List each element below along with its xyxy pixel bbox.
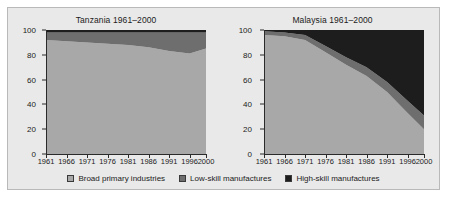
area-band — [46, 40, 206, 154]
x-axis-tick-label: 1976 — [99, 157, 116, 166]
x-axis-tick-label: 1961 — [38, 157, 55, 166]
x-axis-tick-mark — [206, 154, 207, 158]
x-axis-tick-mark — [149, 154, 150, 158]
chart-legend: Broad primary industries Low-skill manuf… — [8, 174, 439, 183]
x-axis-line-tanzania — [46, 154, 207, 155]
y-axis-tick-label: 20 — [27, 125, 36, 134]
y-axis-tick-mark — [42, 104, 46, 105]
chart-title-tanzania: Tanzania 1961–2000 — [8, 15, 224, 25]
plot-area-malaysia — [264, 30, 424, 154]
x-axis-tick-label: 1991 — [379, 157, 396, 166]
x-axis-tick-mark — [169, 154, 170, 158]
x-axis-tick-label: 1966 — [276, 157, 293, 166]
x-axis-tick-label: 1971 — [79, 157, 96, 166]
x-axis-tick-label: 2000 — [198, 157, 215, 166]
x-axis-labels-malaysia: 196119661971197619811986199119962000 — [224, 157, 441, 171]
y-axis-tick-mark — [42, 30, 46, 31]
x-axis-labels-tanzania: 196119661971197619811986199119962000 — [8, 157, 224, 171]
y-axis-tick-label: 100 — [239, 26, 252, 35]
x-axis-tick-mark — [424, 154, 425, 158]
y-axis-tick-mark — [42, 54, 46, 55]
y-axis-tick-mark — [42, 129, 46, 130]
x-axis-tick-label: 1996 — [181, 157, 198, 166]
x-axis-tick-mark — [408, 154, 409, 158]
y-axis-tick-label: 80 — [243, 50, 252, 59]
legend-item-low-skill-manufactures: Low-skill manufactures — [179, 174, 271, 183]
x-axis-tick-mark — [87, 154, 88, 158]
legend-swatch-icon-low-skill-manufactures — [179, 175, 186, 182]
x-axis-tick-label: 1986 — [358, 157, 375, 166]
legend-swatch-icon-broad-primary-industries — [67, 175, 74, 182]
x-axis-tick-label: 1966 — [58, 157, 75, 166]
figure-panel: Tanzania 1961–2000 020406080100 19611966… — [7, 7, 440, 190]
y-axis-tick-mark — [42, 79, 46, 80]
x-axis-tick-mark — [387, 154, 388, 158]
y-axis-labels-malaysia: 020406080100 — [224, 30, 258, 154]
y-axis-line-malaysia — [264, 30, 265, 155]
x-axis-tick-mark — [46, 154, 47, 158]
legend-label-low-skill-manufactures: Low-skill manufactures — [190, 174, 271, 183]
chart-malaysia: Malaysia 1961–2000 020406080100 19611966… — [224, 8, 441, 168]
y-axis-tick-mark — [260, 54, 264, 55]
x-axis-tick-label: 1996 — [399, 157, 416, 166]
area-band — [46, 30, 206, 32]
x-axis-tick-label: 1981 — [338, 157, 355, 166]
x-axis-tick-mark — [367, 154, 368, 158]
chart-tanzania: Tanzania 1961–2000 020406080100 19611966… — [8, 8, 224, 168]
x-axis-tick-label: 2000 — [416, 157, 433, 166]
y-axis-labels-tanzania: 020406080100 — [8, 30, 42, 154]
stacked-area-svg-tanzania — [46, 30, 206, 154]
y-axis-tick-label: 80 — [27, 50, 36, 59]
y-axis-tick-mark — [260, 129, 264, 130]
x-axis-tick-mark — [305, 154, 306, 158]
x-axis-tick-label: 1986 — [140, 157, 157, 166]
legend-item-broad-primary-industries: Broad primary industries — [67, 174, 165, 183]
x-axis-line-malaysia — [264, 154, 425, 155]
legend-label-broad-primary-industries: Broad primary industries — [78, 174, 165, 183]
legend-item-high-skill-manufactures: High-skill manufactures — [285, 174, 379, 183]
y-axis-line-tanzania — [46, 30, 47, 155]
x-axis-tick-label: 1961 — [256, 157, 273, 166]
legend-swatch-icon-high-skill-manufactures — [285, 175, 292, 182]
y-axis-tick-label: 60 — [27, 75, 36, 84]
x-axis-tick-mark — [67, 154, 68, 158]
x-axis-tick-mark — [326, 154, 327, 158]
y-axis-tick-label: 40 — [27, 100, 36, 109]
plot-area-tanzania — [46, 30, 206, 154]
y-axis-tick-label: 40 — [243, 100, 252, 109]
y-axis-tick-mark — [260, 30, 264, 31]
legend-label-high-skill-manufactures: High-skill manufactures — [296, 174, 379, 183]
x-axis-tick-mark — [108, 154, 109, 158]
stacked-area-svg-malaysia — [264, 30, 424, 154]
y-axis-tick-mark — [260, 104, 264, 105]
y-axis-tick-label: 20 — [243, 125, 252, 134]
x-axis-tick-mark — [190, 154, 191, 158]
x-axis-tick-label: 1991 — [161, 157, 178, 166]
y-axis-tick-mark — [260, 79, 264, 80]
x-axis-tick-mark — [128, 154, 129, 158]
x-axis-tick-label: 1976 — [317, 157, 334, 166]
y-axis-tick-label: 100 — [23, 26, 36, 35]
x-axis-tick-label: 1971 — [297, 157, 314, 166]
y-axis-tick-label: 60 — [243, 75, 252, 84]
x-axis-tick-mark — [264, 154, 265, 158]
x-axis-tick-mark — [285, 154, 286, 158]
x-axis-tick-mark — [346, 154, 347, 158]
x-axis-tick-label: 1981 — [120, 157, 137, 166]
chart-title-malaysia: Malaysia 1961–2000 — [224, 15, 441, 25]
